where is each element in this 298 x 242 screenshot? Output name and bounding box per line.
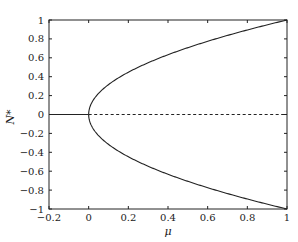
y-tick-label: −0.2 bbox=[20, 128, 44, 139]
x-tick-label: 1 bbox=[284, 212, 290, 223]
x-tick-label: 0.4 bbox=[160, 212, 176, 223]
series-line-3 bbox=[89, 115, 287, 210]
y-tick-label: 0.2 bbox=[28, 90, 44, 101]
y-tick-label: −1 bbox=[29, 204, 44, 215]
y-tick-label: 0.8 bbox=[28, 33, 44, 44]
y-tick-label: 0.4 bbox=[28, 71, 44, 82]
y-tick-label: −0.8 bbox=[20, 185, 44, 196]
x-axis-ticks: −0.200.20.40.60.81 bbox=[37, 20, 290, 223]
y-tick-label: −0.4 bbox=[20, 147, 44, 158]
x-tick-label: 0.8 bbox=[239, 212, 255, 223]
x-tick-label: 0.2 bbox=[120, 212, 136, 223]
y-axis-label: N* bbox=[4, 109, 17, 126]
series-line-2 bbox=[89, 20, 287, 115]
y-tick-label: 0 bbox=[38, 109, 44, 120]
y-tick-label: 0.6 bbox=[28, 52, 44, 63]
x-tick-label: 0 bbox=[85, 212, 91, 223]
bifurcation-chart: −0.200.20.40.60.81 −1−0.8−0.6−0.4−0.200.… bbox=[0, 0, 298, 242]
x-axis-label: μ bbox=[164, 225, 171, 238]
x-tick-label: 0.6 bbox=[200, 212, 216, 223]
y-tick-label: −0.6 bbox=[20, 166, 44, 177]
y-tick-label: 1 bbox=[38, 15, 44, 26]
plot-series bbox=[49, 20, 287, 209]
